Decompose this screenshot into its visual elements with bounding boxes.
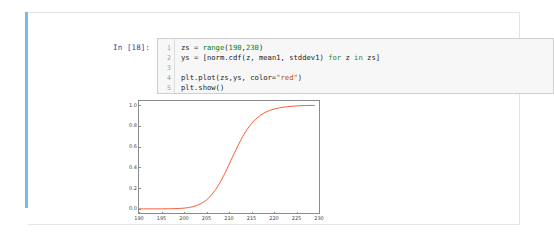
code-line[interactable]: plt.plot(zs,ys, color="red") [181,73,380,83]
code-token: range [203,43,225,52]
code-editor[interactable]: 12345 zs = range(190,230)ys = [norm.cdf(… [157,38,554,94]
x-tick-label: 205 [197,216,217,221]
code-token: z [345,53,354,62]
line-number: 2 [167,53,171,63]
code-token: ys [181,53,194,62]
x-axis-tick-labels: 190195200205210215220225230 [138,216,320,224]
code-token: = [194,53,203,62]
x-tick-label: 230 [309,216,329,221]
y-tick-label: 0.8 [121,123,137,128]
code-cell[interactable]: In [18]: 12345 zs = range(190,230)ys = [… [56,25,548,83]
code-token: ) [259,43,263,52]
line-number-gutter: 12345 [158,39,175,93]
cdf-curve [139,101,319,213]
cdf-curve-line [139,105,315,208]
y-tick-label: 1.0 [121,103,137,108]
code-token: plt.plot(zs,ys, color= [181,73,276,82]
code-text[interactable]: zs = range(190,230)ys = [norm.cdf(z, mea… [181,43,380,93]
code-line[interactable] [181,63,380,73]
figure-output: 1.00.80.60.40.20.0 190195200205210215220… [129,91,349,226]
x-tick-label: 200 [174,216,194,221]
x-tick-label: 195 [152,216,172,221]
code-token: "red" [276,73,298,82]
code-line[interactable]: ys = [norm.cdf(z, mean1, stddev1) for z … [181,53,380,63]
code-token: = [194,43,203,52]
code-token: for [328,53,345,62]
x-tick-label: 190 [129,216,149,221]
code-token: in [354,53,367,62]
y-axis-tick-labels: 1.00.80.60.40.20.0 [119,100,137,214]
code-token: 190 [229,43,242,52]
code-token: zs [181,43,194,52]
code-token: [norm.cdf(z, mean1, stddev1) [203,53,329,62]
x-tick-label: 225 [287,216,307,221]
line-number: 4 [167,73,171,83]
code-token: ) [298,73,302,82]
line-number: 1 [167,43,171,53]
line-number: 3 [167,63,171,73]
cell-prompt-label: In [18]: [102,43,150,52]
x-tick-label: 210 [219,216,239,221]
code-token: zs] [367,53,380,62]
y-tick-label: 0.0 [121,206,137,211]
x-tick-label: 215 [242,216,262,221]
x-tick-label: 220 [264,216,284,221]
y-tick-label: 0.6 [121,144,137,149]
code-token: 230 [246,43,259,52]
y-tick-label: 0.2 [121,186,137,191]
notebook-panel: In [18]: 12345 zs = range(190,230)ys = [… [28,12,520,225]
x-tick-mark [319,212,320,215]
code-line[interactable]: zs = range(190,230) [181,43,380,53]
y-tick-label: 0.4 [121,165,137,170]
